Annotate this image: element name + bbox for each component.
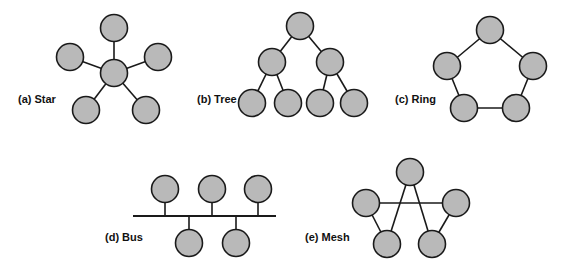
tree-internal-right[interactable]	[317, 49, 344, 76]
node-layer-mesh	[353, 159, 470, 258]
topology-panel-tree: (b) Tree	[197, 13, 368, 117]
bus-bottom-2[interactable]	[223, 230, 250, 257]
tree-leaf-3[interactable]	[307, 90, 334, 117]
node-layer-star	[57, 15, 172, 124]
network-topology-figure: (a) Star(b) Tree(c) Ring(d) Bus(e) Mesh	[0, 0, 566, 270]
mesh-bottom-left[interactable]	[374, 231, 401, 258]
star-left[interactable]	[57, 44, 84, 71]
tree-leaf-1[interactable]	[239, 90, 266, 117]
node-layer-ring	[434, 17, 547, 122]
panel-label-mesh: (e) Mesh	[305, 231, 350, 243]
star-hub[interactable]	[101, 60, 128, 87]
topology-panel-mesh: (e) Mesh	[305, 159, 470, 258]
star-top[interactable]	[101, 15, 128, 42]
mesh-right[interactable]	[443, 190, 470, 217]
mesh-bottom-right[interactable]	[419, 231, 446, 258]
panel-label-tree: (b) Tree	[197, 93, 237, 105]
bus-top-3[interactable]	[245, 176, 272, 203]
ring-upper-left[interactable]	[434, 53, 461, 80]
star-lower-right[interactable]	[133, 97, 160, 124]
mesh-left[interactable]	[353, 190, 380, 217]
ring-top[interactable]	[477, 17, 504, 44]
mesh-top[interactable]	[397, 159, 424, 186]
node-layer-tree	[239, 13, 368, 117]
star-lower-left[interactable]	[73, 97, 100, 124]
diagram-layers: (a) Star(b) Tree(c) Ring(d) Bus(e) Mesh	[18, 13, 547, 258]
topology-panel-bus: (d) Bus	[105, 176, 276, 257]
panel-label-bus: (d) Bus	[105, 231, 143, 243]
ring-lower-left[interactable]	[451, 95, 478, 122]
topology-diagram: (a) Star(b) Tree(c) Ring(d) Bus(e) Mesh	[0, 0, 566, 270]
topology-panel-star: (a) Star	[18, 15, 172, 124]
ring-lower-right[interactable]	[503, 95, 530, 122]
tree-internal-left[interactable]	[259, 49, 286, 76]
tree-leaf-2[interactable]	[275, 90, 302, 117]
panel-label-ring: (c) Ring	[395, 93, 436, 105]
tree-leaf-4[interactable]	[341, 90, 368, 117]
bus-top-2[interactable]	[199, 176, 226, 203]
ring-upper-right[interactable]	[520, 53, 547, 80]
topology-panel-ring: (c) Ring	[395, 17, 547, 122]
bus-top-1[interactable]	[152, 176, 179, 203]
star-right[interactable]	[145, 44, 172, 71]
tree-root[interactable]	[287, 13, 314, 40]
panel-label-star: (a) Star	[18, 93, 57, 105]
bus-bottom-1[interactable]	[176, 230, 203, 257]
